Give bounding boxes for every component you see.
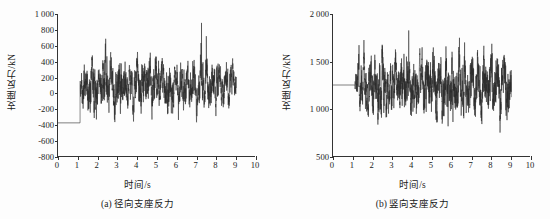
y-tick-mark <box>55 141 59 142</box>
waveform-a <box>58 14 255 156</box>
x-axis-label-a: 时间/s <box>0 177 275 191</box>
x-tick-mark <box>197 156 198 160</box>
plot-area-b <box>333 14 530 156</box>
y-tick-label: 2 000 <box>310 9 329 19</box>
x-tick-label: 1 <box>75 160 79 170</box>
x-tick-mark <box>333 156 334 160</box>
y-tick-mark <box>55 62 59 63</box>
y-tick-mark <box>55 125 59 126</box>
x-tick-labels-b: 012345678910 <box>275 160 550 174</box>
plot-area-a <box>58 14 255 156</box>
x-tick-mark <box>236 156 237 160</box>
x-tick-label: 9 <box>233 160 237 170</box>
x-tick-mark <box>177 156 178 160</box>
panel-a: 支座反力/kN 1 0008006004002000-200-400-600-8… <box>0 0 275 219</box>
y-tick-mark <box>55 93 59 94</box>
y-tick-labels-a: 1 0008006004002000-200-400-600-800 <box>18 0 56 175</box>
x-tick-mark <box>511 156 512 160</box>
x-tick-label: 9 <box>508 160 512 170</box>
x-tick-label: 5 <box>429 160 433 170</box>
x-tick-label: 3 <box>389 160 393 170</box>
panel-b: 支座反力/kN 2 0001 5001 000500 012345678910 … <box>275 0 550 219</box>
y-tick-label: 200 <box>41 73 54 83</box>
y-tick-label: 800 <box>41 25 54 35</box>
x-tick-mark <box>157 156 158 160</box>
x-tick-label: 3 <box>114 160 118 170</box>
plot-block-a: 支座反力/kN 1 0008006004002000-200-400-600-8… <box>0 0 275 175</box>
y-tick-label: 400 <box>41 57 54 67</box>
y-tick-mark <box>55 14 59 15</box>
x-tick-label: 2 <box>94 160 98 170</box>
x-tick-label: 4 <box>134 160 138 170</box>
figure-container: 支座反力/kN 1 0008006004002000-200-400-600-8… <box>0 0 550 219</box>
x-tick-mark <box>432 156 433 160</box>
y-tick-label: 600 <box>41 41 54 51</box>
x-tick-mark <box>137 156 138 160</box>
x-tick-mark <box>216 156 217 160</box>
x-tick-mark <box>78 156 79 160</box>
x-tick-mark <box>392 156 393 160</box>
x-tick-mark <box>452 156 453 160</box>
y-tick-mark <box>330 14 334 15</box>
axes-a <box>57 14 255 157</box>
x-tick-label: 0 <box>55 160 59 170</box>
caption-b: (b) 竖向支座反力 <box>275 196 550 210</box>
plot-block-b: 支座反力/kN 2 0001 5001 000500 012345678910 … <box>275 0 550 175</box>
y-tick-label: 0 <box>50 88 54 98</box>
y-tick-label: -600 <box>38 136 54 146</box>
x-tick-label: 7 <box>193 160 197 170</box>
x-tick-label: 0 <box>330 160 334 170</box>
x-tick-label: 1 <box>350 160 354 170</box>
x-tick-label: 6 <box>174 160 178 170</box>
x-tick-mark <box>353 156 354 160</box>
x-tick-label: 8 <box>488 160 492 170</box>
y-tick-mark <box>330 109 334 110</box>
y-tick-mark <box>55 30 59 31</box>
axes-b <box>332 14 530 157</box>
x-tick-mark <box>117 156 118 160</box>
x-tick-label: 7 <box>468 160 472 170</box>
x-tick-mark <box>373 156 374 160</box>
x-axis-label-b: 时间/s <box>275 177 550 191</box>
waveform-b <box>333 14 530 156</box>
x-tick-label: 5 <box>154 160 158 170</box>
y-tick-labels-b: 2 0001 5001 000500 <box>293 0 331 175</box>
y-tick-mark <box>330 62 334 63</box>
y-tick-label: 1 000 <box>35 9 54 19</box>
x-tick-label: 10 <box>251 160 260 170</box>
x-tick-mark <box>98 156 99 160</box>
y-tick-mark <box>55 78 59 79</box>
x-tick-mark <box>58 156 59 160</box>
x-tick-labels-a: 012345678910 <box>0 160 275 174</box>
x-tick-mark <box>412 156 413 160</box>
x-tick-mark <box>491 156 492 160</box>
x-tick-mark <box>472 156 473 160</box>
x-tick-mark <box>531 156 532 160</box>
y-tick-label: -200 <box>38 104 54 114</box>
y-tick-label: -400 <box>38 120 54 130</box>
x-tick-label: 4 <box>409 160 413 170</box>
x-tick-label: 10 <box>526 160 535 170</box>
y-tick-label: 1 500 <box>310 57 329 67</box>
x-tick-mark <box>256 156 257 160</box>
x-tick-label: 2 <box>369 160 373 170</box>
x-tick-label: 6 <box>449 160 453 170</box>
y-tick-mark <box>55 109 59 110</box>
y-tick-label: 1 000 <box>310 104 329 114</box>
caption-a: (a) 径向支座反力 <box>0 196 275 210</box>
x-tick-label: 8 <box>213 160 217 170</box>
y-tick-mark <box>55 46 59 47</box>
